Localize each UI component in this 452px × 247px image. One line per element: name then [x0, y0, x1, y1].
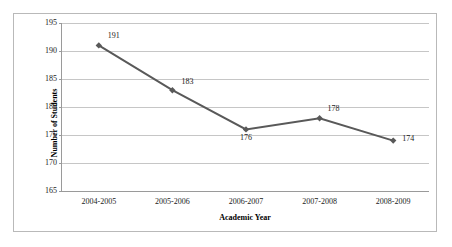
- data-point-label: 174: [402, 135, 414, 143]
- x-axis-tick-label: 2008-2009: [376, 198, 411, 206]
- data-point-label: 183: [181, 78, 193, 86]
- data-point-label: 176: [240, 134, 252, 142]
- x-axis-title: Academic Year: [61, 213, 429, 222]
- y-axis-tick-label: 170: [45, 159, 57, 167]
- y-axis-tick-label: 190: [45, 47, 57, 55]
- data-point-label: 178: [328, 105, 340, 113]
- x-axis-tick-label: 2004-2005: [81, 198, 116, 206]
- data-point-marker: [390, 137, 396, 143]
- data-series: [62, 23, 430, 191]
- y-axis-tick-label: 180: [45, 103, 57, 111]
- x-axis-tick-label: 2005-2006: [155, 198, 190, 206]
- y-axis-tickmark: [59, 191, 62, 192]
- data-point-label: 191: [108, 32, 120, 40]
- gridline: [62, 191, 429, 192]
- x-axis-tick-label: 2006-2007: [229, 198, 264, 206]
- y-axis-tick-label: 195: [45, 19, 57, 27]
- y-axis-tick-label: 165: [45, 187, 57, 195]
- chart-container: Number of Students 165170175180185190195…: [13, 13, 437, 232]
- y-axis-tick-label: 185: [45, 75, 57, 83]
- y-axis-tick-label: 175: [45, 131, 57, 139]
- plot-area: 1651701751801851901952004-20052005-20062…: [61, 23, 429, 191]
- data-point-marker: [316, 115, 322, 121]
- x-axis-tick-label: 2007-2008: [302, 198, 337, 206]
- y-axis-title: Number of Students: [50, 88, 59, 157]
